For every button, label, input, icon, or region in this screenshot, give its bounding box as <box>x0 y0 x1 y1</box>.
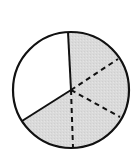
fraction-circle-diagram <box>0 0 136 152</box>
